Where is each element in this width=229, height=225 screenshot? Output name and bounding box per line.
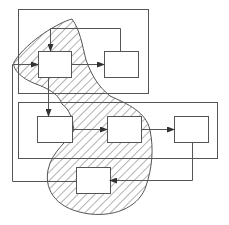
block-f bbox=[77, 168, 111, 194]
block-d bbox=[108, 117, 142, 143]
block-c bbox=[38, 117, 73, 143]
block-diagram bbox=[0, 0, 229, 225]
block-b bbox=[105, 52, 139, 78]
block-e bbox=[175, 117, 209, 143]
block-a bbox=[39, 52, 72, 78]
